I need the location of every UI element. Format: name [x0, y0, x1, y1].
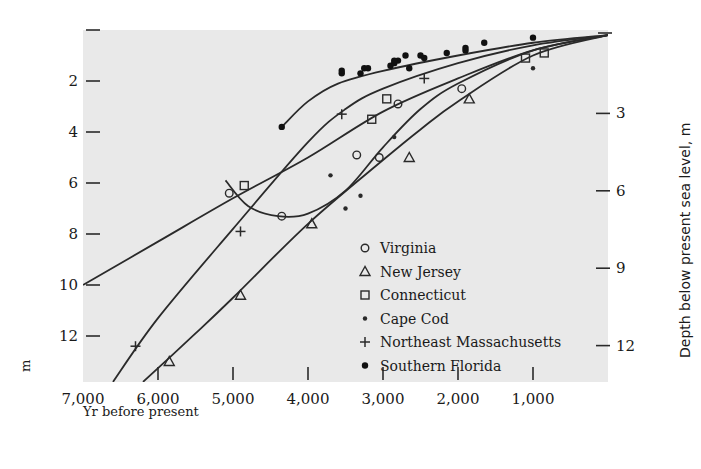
y-tick-label: 10: [59, 276, 78, 294]
filled-circle-marker: [391, 57, 397, 63]
small-dot-marker: [363, 316, 367, 320]
filled-circle-marker: [339, 68, 345, 74]
legend-item-label: Cape Cod: [380, 311, 449, 327]
y-tick-label: 8: [68, 225, 78, 243]
x-tick-label: 4,000: [287, 390, 330, 408]
filled-circle-marker: [444, 50, 450, 56]
legend-item-label: Southern Florida: [380, 358, 501, 374]
legend-item-label: Virginia: [379, 240, 436, 256]
small-dot-marker: [531, 66, 535, 70]
filled-circle-marker: [362, 362, 368, 368]
y-tick-label: 2: [68, 72, 78, 90]
right-tick-label: 12: [616, 337, 635, 355]
filled-circle-marker: [462, 45, 468, 51]
plot-area: [83, 30, 608, 382]
right-tick-label: 9: [616, 259, 626, 277]
sea-level-chart: 24681012 36912 7,0006,0005,0004,0003,000…: [0, 0, 701, 469]
x-tick-label: 5,000: [212, 390, 255, 408]
filled-circle-marker: [406, 65, 412, 71]
right-axis-title: Depth below present sea level, m: [677, 123, 693, 358]
filled-circle-marker: [402, 52, 408, 58]
right-tick-label: 3: [616, 104, 626, 122]
small-dot-marker: [328, 173, 332, 177]
x-axis-title: Yr before present: [82, 404, 200, 419]
legend-item-label: Connecticut: [380, 287, 466, 303]
filled-circle-marker: [481, 40, 487, 46]
small-dot-marker: [358, 194, 362, 198]
y-tick-label: 4: [68, 123, 78, 141]
small-dot-marker: [343, 206, 347, 210]
x-tick-label: 1,000: [512, 390, 555, 408]
filled-circle-marker: [279, 124, 285, 130]
filled-circle-marker: [357, 70, 363, 76]
y-tick-label: 12: [59, 327, 78, 345]
y-tick-label: 6: [68, 174, 78, 192]
x-tick-label: 2,000: [437, 390, 480, 408]
legend-item-label: Northeast Massachusetts: [380, 334, 561, 350]
left-axis-unit: m: [18, 360, 33, 372]
small-dot-marker: [392, 135, 396, 139]
x-tick-label: 3,000: [362, 390, 405, 408]
filled-circle-marker: [530, 34, 536, 40]
filled-circle-marker: [365, 65, 371, 71]
legend-item-label: New Jersey: [380, 264, 461, 280]
right-tick-label: 6: [616, 182, 626, 200]
filled-circle-marker: [421, 55, 427, 61]
